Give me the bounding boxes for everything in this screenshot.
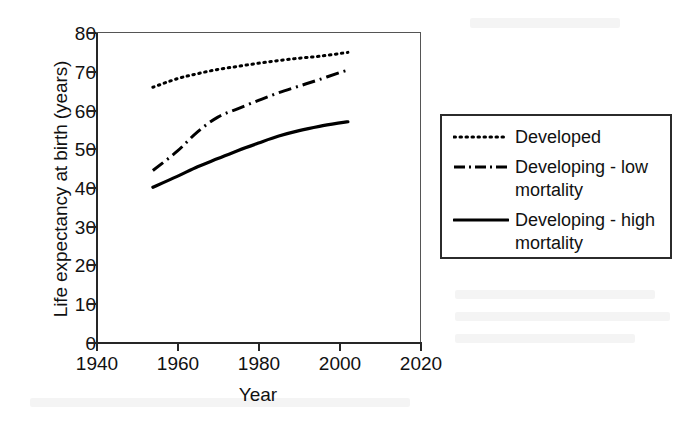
x-tick-mark [258, 342, 260, 351]
scan-artifact [455, 334, 635, 343]
y-tick-mark [87, 303, 96, 305]
series-line-developing-low-mortality [153, 70, 348, 170]
x-tick-label-2000: 2000 [305, 354, 375, 374]
legend-item-developed: Developed [453, 126, 665, 149]
legend-item-developing-low-mortality: Developing - low mortality [453, 156, 665, 202]
x-tick-mark [96, 342, 98, 351]
series-line-developing-high-mortality [153, 122, 348, 187]
scan-artifact [470, 18, 620, 28]
y-tick-mark [87, 187, 96, 189]
scan-artifact [455, 290, 655, 299]
x-tick-mark [339, 342, 341, 351]
x-tick-label-2020: 2020 [386, 354, 456, 374]
legend-swatch-solid-icon [453, 211, 509, 229]
y-tick-mark [87, 32, 96, 34]
x-tick-mark [420, 342, 422, 351]
series-line-developed [153, 52, 348, 87]
legend-label: Developing - high mortality [515, 209, 665, 255]
y-tick-mark [87, 264, 96, 266]
y-tick-mark [87, 148, 96, 150]
x-tick-label-1980: 1980 [224, 354, 294, 374]
y-tick-mark [87, 110, 96, 112]
legend-label: Developing - low mortality [515, 156, 665, 202]
x-tick-label-1940: 1940 [62, 354, 132, 374]
legend-label: Developed [515, 126, 665, 149]
legend-swatch-dash-dot-icon [453, 158, 509, 176]
x-tick-label-1960: 1960 [143, 354, 213, 374]
y-tick-mark [87, 226, 96, 228]
y-tick-mark [87, 342, 96, 344]
x-tick-mark [177, 342, 179, 351]
legend-swatch-dotted-icon [453, 128, 509, 146]
legend-item-developing-high-mortality: Developing - high mortality [453, 209, 665, 255]
series-canvas [96, 33, 421, 343]
plot-area [96, 33, 421, 343]
scan-artifact [455, 312, 670, 321]
y-tick-mark [87, 71, 96, 73]
life-expectancy-line-chart: Life expectancy at birth (years) 80 70 6… [0, 0, 692, 424]
x-axis-title: Year [96, 384, 420, 406]
chart-legend: Developed Developing - low mortality Dev… [440, 114, 672, 259]
